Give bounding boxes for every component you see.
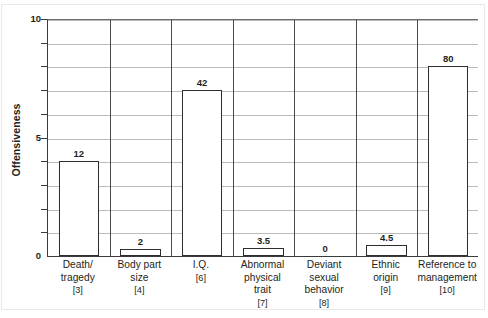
x-axis-labels-group: Death/tragedy[3]Body partsize[4]I.Q.[6]A… xyxy=(47,259,478,315)
y-axis-tick-mark xyxy=(41,138,47,139)
x-axis-category-line: Reference to xyxy=(410,259,484,272)
bar-value-label: 3.5 xyxy=(243,235,283,246)
bar xyxy=(59,161,99,256)
bar-group: 12 xyxy=(59,20,99,256)
bar xyxy=(428,66,468,256)
y-axis-tick-mark xyxy=(41,232,47,233)
y-axis-tick-mark xyxy=(41,19,47,20)
bar-value-label: 42 xyxy=(182,77,222,88)
category-separator xyxy=(294,20,295,256)
x-axis-category-reference: [8] xyxy=(287,297,361,310)
bar-value-label: 80 xyxy=(428,53,468,64)
bar-group: 3.5 xyxy=(243,20,283,256)
category-separator xyxy=(171,20,172,256)
bar-group: 42 xyxy=(182,20,222,256)
bar-group: 80 xyxy=(428,20,468,256)
category-separator xyxy=(417,20,418,256)
bar xyxy=(182,90,222,256)
category-separator xyxy=(233,20,234,256)
y-axis-tick-mark xyxy=(41,66,47,67)
bar-value-label: 2 xyxy=(120,236,160,247)
bar-value-label: 4.5 xyxy=(366,232,406,243)
y-axis-tick-mark xyxy=(41,114,47,115)
category-separator xyxy=(356,20,357,256)
x-axis-category-line: management xyxy=(410,272,484,285)
y-axis-tick-mark xyxy=(41,185,47,186)
x-axis-line xyxy=(47,256,478,257)
bar-group: 2 xyxy=(120,20,160,256)
y-axis-tick-mark xyxy=(41,161,47,162)
y-axis-tick-mark xyxy=(41,209,47,210)
y-axis-tick-mark xyxy=(41,90,47,91)
bar-value-label: 0 xyxy=(305,243,345,254)
category-separator xyxy=(110,20,111,256)
bar-chart-figure: Offensiveness 122423.504.580 0510 Death/… xyxy=(0,0,488,318)
y-axis-tick-label: 10 xyxy=(7,13,41,24)
plot-area: 122423.504.580 xyxy=(47,19,478,256)
bar-group: 4.5 xyxy=(366,20,406,256)
y-axis-tick-mark xyxy=(41,43,47,44)
y-axis-tick-label: 5 xyxy=(7,132,41,143)
x-axis-category-reference: [10] xyxy=(410,284,484,297)
bar-value-label: 12 xyxy=(59,148,99,159)
y-axis-tick-label: 0 xyxy=(7,250,41,261)
bar-group: 0 xyxy=(305,20,345,256)
x-axis-category-reference: [4] xyxy=(103,284,177,297)
bar xyxy=(366,245,406,256)
x-axis-category-label: Reference tomanagement[10] xyxy=(410,259,484,297)
